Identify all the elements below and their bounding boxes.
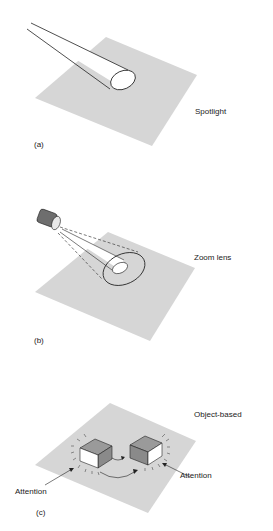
panel-a-title: Spotlight (195, 107, 226, 116)
panel-b-zoom-lens-drawing (35, 208, 195, 341)
attention-models-figure (0, 0, 273, 531)
panel-c-title: Object-based (194, 410, 242, 419)
plane-b (35, 232, 195, 341)
attention-label-left: Attention (15, 487, 47, 496)
panel-b-letter: (b) (34, 336, 44, 345)
panel-c-object-based-drawing (35, 403, 196, 513)
panel-a-letter: (a) (34, 140, 44, 149)
panel-c-letter: (c) (36, 508, 45, 517)
panel-b-title: Zoom lens (194, 253, 231, 262)
plane-a (35, 37, 197, 146)
attention-label-right: Attention (180, 471, 212, 480)
plane-c (35, 403, 196, 513)
panel-a-spotlight-drawing (27, 23, 197, 146)
